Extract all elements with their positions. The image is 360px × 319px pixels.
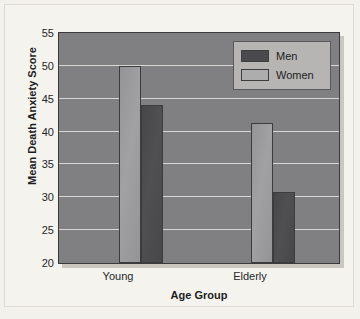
figure-root: 55 50 45 40 35 30 25 20 Mean Death Anxie… <box>0 0 360 319</box>
bar-elderly-women <box>251 123 273 263</box>
bar-young-women <box>119 66 141 263</box>
legend-label-women: Women <box>276 70 314 81</box>
legend-swatch-women-icon <box>241 69 269 81</box>
y-axis-title: Mean Death Anxiety Score <box>26 16 38 216</box>
legend-label-men: Men <box>276 51 297 62</box>
gridline-40 <box>59 131 339 132</box>
legend-item-women: Women <box>241 67 323 83</box>
x-tick-young: Young <box>73 270 163 282</box>
gridline-25 <box>59 229 339 230</box>
x-axis-title: Age Group <box>58 289 340 301</box>
y-tick-20: 20 <box>14 258 54 269</box>
gridline-45 <box>59 98 339 99</box>
gridline-35 <box>59 163 339 164</box>
y-tick-25: 25 <box>14 225 54 236</box>
legend: Men Women <box>233 41 331 90</box>
gridline-30 <box>59 196 339 197</box>
legend-swatch-men-icon <box>241 50 269 62</box>
legend-item-men: Men <box>241 48 323 64</box>
plot-area: Men Women <box>58 32 340 264</box>
x-tick-elderly: Elderly <box>205 270 295 282</box>
bar-young-men <box>141 105 163 263</box>
bar-elderly-men <box>273 192 295 263</box>
